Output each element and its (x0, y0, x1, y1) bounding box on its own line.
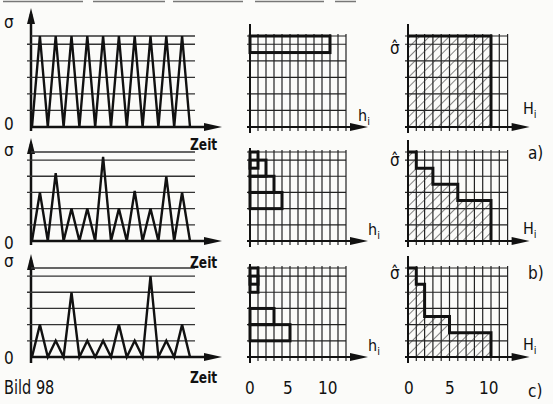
figure-caption: Bild 98 (4, 378, 54, 397)
zero-label-c: 0 (4, 350, 14, 367)
H-i-label-b: Hi (523, 221, 537, 240)
row-a (27, 8, 530, 133)
h-i-label-c: hi (368, 338, 380, 357)
panels (27, 8, 530, 363)
sigma-hat-label-b: σ̂ (390, 152, 400, 169)
sigma-hat-label-a: σ̂ (390, 40, 400, 57)
tick-H-0: 0 (404, 380, 414, 397)
sigma-label-a: σ (4, 14, 14, 31)
zero-label-a: 0 (4, 116, 14, 133)
sigma-label-b: σ (4, 142, 14, 159)
row-c (27, 254, 530, 363)
tick-h-5: 5 (283, 380, 293, 397)
tick-h-0: 0 (245, 380, 255, 397)
time-label-c: Zeit (190, 370, 217, 386)
case-label-c: c) (528, 383, 542, 400)
case-label-b: b) (528, 265, 544, 282)
figure-canvas (0, 0, 553, 404)
tick-H-5: 5 (445, 380, 455, 397)
time-label-b: Zeit (190, 255, 217, 271)
H-i-label-a: Hi (523, 101, 537, 120)
row-b (27, 138, 530, 247)
H-i-label-c: Hi (523, 337, 537, 356)
zero-label-b: 0 (4, 235, 14, 252)
tick-H-10: 10 (479, 380, 498, 397)
tick-h-10: 10 (318, 380, 337, 397)
case-label-a: a) (528, 145, 543, 162)
h-i-label-b: hi (368, 222, 380, 241)
sigma-hat-label-c: σ̂ (390, 265, 400, 282)
h-i-label-a: hi (358, 108, 370, 127)
time-label-a: Zeit (190, 137, 217, 153)
sigma-label-c: σ (4, 253, 14, 270)
